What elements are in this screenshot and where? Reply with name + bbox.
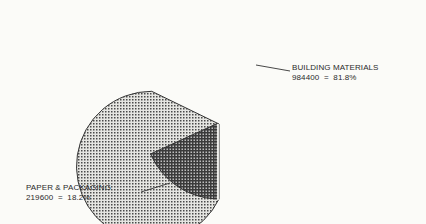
- label-paper-packaging-name: PAPER & PACKAGING: [26, 183, 111, 193]
- label-paper-packaging-value: 219600 = 18.2%: [26, 193, 111, 203]
- label-building-materials-value: 984400 = 81.8%: [292, 73, 379, 83]
- label-building-materials-name: BUILDING MATERIALS: [292, 63, 379, 73]
- label-paper-packaging: PAPER & PACKAGING 219600 = 18.2%: [26, 183, 111, 203]
- leader-line-building-materials: [256, 65, 290, 71]
- label-building-materials: BUILDING MATERIALS 984400 = 81.8%: [292, 63, 379, 83]
